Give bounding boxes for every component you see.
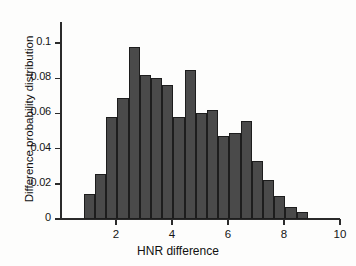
histogram-bar [229, 133, 240, 219]
histogram-bar [252, 161, 263, 219]
histogram-bar [196, 113, 207, 219]
x-axis-label: HNR difference [0, 244, 356, 258]
histogram-bar [173, 117, 184, 219]
histogram-bar [95, 174, 106, 219]
histogram-bar [106, 117, 117, 219]
x-tick-label: 8 [272, 228, 296, 240]
x-tick-label: 6 [216, 228, 240, 240]
histogram-bar [241, 121, 252, 220]
x-tick-label: 2 [104, 228, 128, 240]
y-axis-label: Difference probability distribution [23, 19, 35, 219]
x-tick-mark [339, 219, 340, 225]
histogram-bar [274, 196, 285, 219]
histogram-bar [185, 70, 196, 220]
histogram-bar [297, 212, 308, 219]
histogram-bar [285, 207, 296, 219]
y-tick-label: 0.1 [36, 35, 51, 47]
histogram-bar [162, 85, 173, 219]
histogram-bar [263, 180, 274, 219]
x-tick-mark [227, 219, 228, 225]
histogram-bars [60, 22, 340, 219]
histogram-bar [84, 194, 95, 220]
histogram-bar [129, 47, 140, 219]
histogram-bar [140, 75, 151, 219]
x-tick-label: 4 [160, 228, 184, 240]
histogram-bar [117, 98, 128, 219]
histogram-bar [218, 136, 229, 219]
y-tick-label: 0 [45, 211, 51, 223]
histogram-bar [151, 78, 162, 219]
x-tick-mark [115, 219, 116, 225]
x-tick-label: 10 [328, 228, 352, 240]
x-tick-mark [283, 219, 284, 225]
histogram-figure: 00.020.040.060.080.1 246810 HNR differen… [0, 0, 356, 266]
histogram-bar [207, 110, 218, 219]
x-tick-mark [171, 219, 172, 225]
